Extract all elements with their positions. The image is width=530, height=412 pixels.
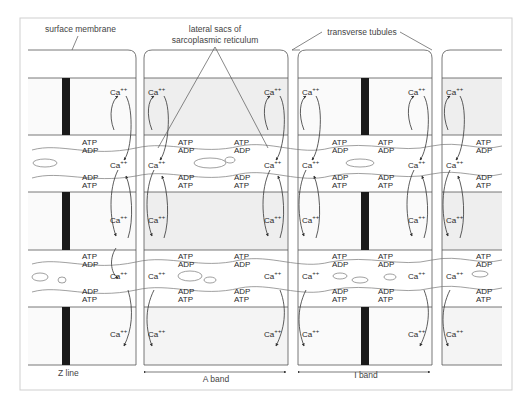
svg-text:ATP: ATP: [82, 295, 97, 304]
svg-text:ADP: ADP: [82, 146, 98, 155]
svg-text:ADP: ADP: [332, 146, 348, 155]
svg-text:ADP: ADP: [178, 260, 194, 269]
svg-text:ATP: ATP: [234, 181, 249, 190]
svg-text:ADP: ADP: [332, 260, 348, 269]
z-line-2a: [361, 78, 369, 135]
surface-membrane-label: surface membrane: [45, 24, 116, 34]
a-band-label: A band: [203, 374, 230, 384]
svg-text:ADP: ADP: [476, 146, 492, 155]
z-line-1b: [62, 192, 70, 250]
svg-text:ADP: ADP: [378, 260, 394, 269]
svg-text:ADP: ADP: [82, 260, 98, 269]
svg-text:ADP: ADP: [378, 146, 394, 155]
lateral-sacs-label-line2: sarcoplasmic reticulum: [172, 35, 258, 45]
svg-text:ATP: ATP: [178, 295, 193, 304]
svg-text:ADP: ADP: [178, 146, 194, 155]
z-line-1a: [62, 78, 70, 135]
svg-text:ATP: ATP: [332, 295, 347, 304]
transverse-tubules-label: transverse tubules: [327, 27, 396, 37]
svg-text:ATP: ATP: [332, 181, 347, 190]
svg-text:ATP: ATP: [476, 181, 491, 190]
svg-text:ATP: ATP: [476, 295, 491, 304]
svg-text:ATP: ATP: [82, 181, 97, 190]
lateral-sacs-label-line1: lateral sacs of: [189, 24, 242, 34]
z-line-label: Z line: [58, 368, 79, 378]
svg-text:ATP: ATP: [378, 295, 393, 304]
i-band-label: I band: [354, 370, 378, 380]
muscle-fiber-diagram: Ca++ Ca++ Ca++ Ca++ Ca++ Ca++ Ca++ Ca++ …: [0, 0, 530, 412]
svg-text:ATP: ATP: [234, 295, 249, 304]
svg-text:ATP: ATP: [378, 181, 393, 190]
svg-text:ADP: ADP: [234, 146, 250, 155]
svg-text:ATP: ATP: [178, 181, 193, 190]
svg-text:ADP: ADP: [234, 260, 250, 269]
z-line-1c: [62, 307, 70, 365]
z-line-2b: [361, 192, 369, 250]
svg-text:ADP: ADP: [476, 260, 492, 269]
z-line-2c: [361, 307, 369, 365]
